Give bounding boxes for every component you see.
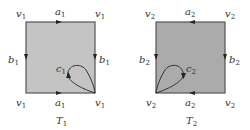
vertex-label: v1 <box>95 97 105 110</box>
edge-label-top: a2 <box>185 6 195 19</box>
figure-title-t1: T1 <box>56 115 67 128</box>
figure-title-t2: T2 <box>186 115 197 128</box>
vertex-label: v2 <box>145 8 155 21</box>
edge-label-left: b1 <box>8 54 19 67</box>
figure-t1: v1 a1 v1 b1 b1 c1 v1 a1 v1 T1 <box>8 6 110 128</box>
square-t2 <box>156 22 225 93</box>
edge-label-bottom: a2 <box>185 97 195 110</box>
edge-label-right: b2 <box>229 54 240 67</box>
edge-label-left: b2 <box>139 54 150 67</box>
edge-label-bottom: a1 <box>55 97 65 110</box>
figure-t2: v2 a2 v2 b2 b2 c2 v2 a2 v2 T2 <box>139 6 240 128</box>
diagram-canvas: v1 a1 v1 b1 b1 c1 v1 a1 v1 T1 v2 a2 v2 b… <box>0 0 250 130</box>
square-t1 <box>26 22 95 93</box>
vertex-label: v1 <box>16 8 26 21</box>
vertex-label: v2 <box>225 97 235 110</box>
vertex-label: v1 <box>16 97 26 110</box>
vertex-label: v2 <box>225 8 235 21</box>
edge-label-top: a1 <box>55 6 65 19</box>
edge-label-right: b1 <box>99 54 110 67</box>
vertex-label: v1 <box>95 8 105 21</box>
vertex-label: v2 <box>146 97 156 110</box>
